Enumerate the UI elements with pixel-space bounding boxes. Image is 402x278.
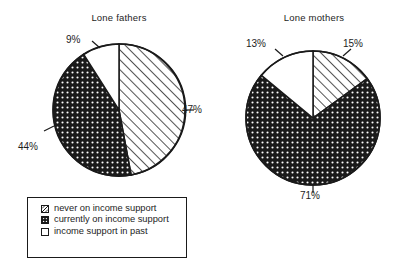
pie-chart-figure: Lone fathers Lone mothers 47% 44% 9% 15%… [0, 0, 402, 278]
pie-fathers [53, 44, 186, 176]
pie-title-mothers: Lone mothers [252, 12, 376, 23]
legend: never on income support currently on inc… [27, 197, 187, 258]
legend-label-never: never on income support [54, 203, 156, 214]
leader-fathers-past [92, 41, 100, 48]
legend-item-currently: currently on income support [41, 214, 182, 225]
label-mothers-past-pct: 13% [246, 38, 266, 49]
label-fathers-never-pct: 47% [182, 104, 202, 115]
legend-item-past: income support in past [41, 226, 182, 237]
leader-mothers-past [275, 49, 283, 56]
legend-label-currently: currently on income support [54, 214, 169, 225]
legend-item-never: never on income support [41, 203, 182, 214]
leader-mothers-never [343, 49, 351, 56]
legend-swatch-hatch-icon [41, 205, 49, 213]
label-mothers-never-pct: 15% [343, 38, 363, 49]
legend-label-past: income support in past [54, 226, 148, 237]
label-fathers-currently-pct: 44% [18, 141, 38, 152]
pie-title-fathers: Lone fathers [57, 12, 181, 23]
slice-fathers-never [119, 44, 186, 175]
leader-fathers-currently [44, 126, 54, 131]
legend-swatch-white-icon [41, 228, 49, 236]
label-fathers-past-pct: 9% [66, 34, 80, 45]
pie-mothers [246, 51, 380, 185]
legend-swatch-dotted-icon [41, 216, 49, 224]
label-mothers-currently-pct: 71% [300, 190, 320, 201]
